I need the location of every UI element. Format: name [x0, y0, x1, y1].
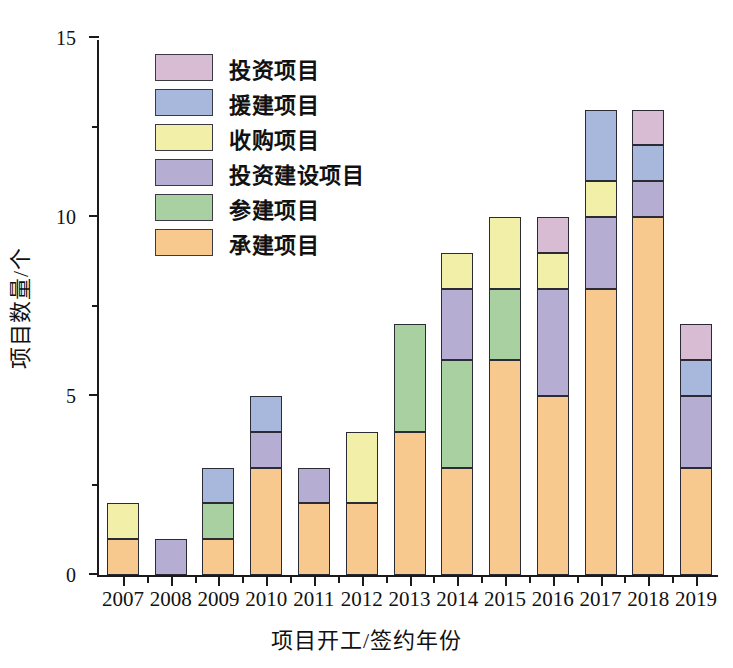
bar-segment[interactable]: [680, 468, 712, 575]
bar-column[interactable]: [346, 432, 378, 575]
legend-item[interactable]: 承建项目: [155, 225, 415, 260]
x-axis-tick-label: 2009: [197, 589, 239, 610]
x-axis-tick: [410, 575, 412, 586]
bar-segment[interactable]: [346, 503, 378, 575]
y-axis-tick-label: 5: [66, 386, 76, 406]
y-axis-minor-tick: [92, 126, 99, 128]
x-axis-minor-tick: [529, 575, 531, 583]
bar-segment[interactable]: [202, 468, 234, 504]
x-axis-tick: [266, 575, 268, 586]
bar-column[interactable]: [632, 110, 664, 575]
y-axis-minor-tick: [92, 484, 99, 486]
stacked-bar-chart: 项目数量/个 051015 20072008200920102011201220…: [0, 0, 733, 668]
x-axis-tick: [505, 575, 507, 586]
bar-segment[interactable]: [298, 468, 330, 504]
x-axis-minor-tick: [242, 575, 244, 583]
y-axis-tick-label: 15: [56, 28, 76, 48]
bar-segment[interactable]: [489, 289, 521, 361]
bar-column[interactable]: [489, 217, 521, 575]
x-axis-minor-tick: [195, 575, 197, 583]
bar-segment[interactable]: [585, 110, 617, 182]
bar-column[interactable]: [537, 217, 569, 575]
x-axis-tick: [362, 575, 364, 586]
legend-item[interactable]: 投资建设项目: [155, 155, 415, 190]
x-axis-minor-tick: [672, 575, 674, 583]
bar-segment[interactable]: [250, 432, 282, 468]
bar-segment[interactable]: [537, 217, 569, 253]
bar-segment[interactable]: [441, 289, 473, 361]
bar-segment[interactable]: [537, 253, 569, 289]
bar-segment[interactable]: [632, 110, 664, 146]
x-axis-tick: [457, 575, 459, 586]
legend-swatch-icon: [155, 89, 213, 116]
bar-segment[interactable]: [537, 289, 569, 396]
chart-legend: 投资项目援建项目收购项目投资建设项目参建项目承建项目: [155, 50, 415, 260]
x-axis-tick: [314, 575, 316, 586]
bar-segment[interactable]: [632, 217, 664, 575]
bar-segment[interactable]: [680, 324, 712, 360]
x-axis-tick-label: 2016: [532, 589, 574, 610]
bar-segment[interactable]: [632, 145, 664, 181]
bar-column[interactable]: [585, 110, 617, 575]
legend-item[interactable]: 参建项目: [155, 190, 415, 225]
bar-segment[interactable]: [394, 324, 426, 431]
bar-column[interactable]: [680, 324, 712, 575]
y-axis-tick: 10: [89, 215, 99, 217]
bar-segment[interactable]: [250, 468, 282, 575]
y-axis-tick: 15: [89, 36, 99, 38]
legend-swatch-icon: [155, 229, 213, 256]
legend-item[interactable]: 援建项目: [155, 85, 415, 120]
bar-segment[interactable]: [489, 360, 521, 575]
x-axis-tick: [601, 575, 603, 586]
legend-item[interactable]: 投资项目: [155, 50, 415, 85]
bar-segment[interactable]: [441, 253, 473, 289]
bar-segment[interactable]: [585, 289, 617, 575]
bar-segment[interactable]: [585, 217, 617, 289]
bar-segment[interactable]: [394, 432, 426, 575]
x-axis-tick-label: 2007: [102, 589, 144, 610]
y-axis-tick-label: 10: [56, 207, 76, 227]
bar-column[interactable]: [298, 468, 330, 575]
legend-swatch-icon: [155, 54, 213, 81]
bar-segment[interactable]: [202, 539, 234, 575]
x-axis-minor-tick: [624, 575, 626, 583]
legend-item-label: 投资建设项目: [229, 157, 364, 189]
bar-segment[interactable]: [441, 468, 473, 575]
bar-column[interactable]: [441, 253, 473, 575]
bar-segment[interactable]: [585, 181, 617, 217]
bar-segment[interactable]: [680, 396, 712, 468]
bar-column[interactable]: [155, 539, 187, 575]
legend-swatch-icon: [155, 124, 213, 151]
x-axis-minor-tick: [577, 575, 579, 583]
bar-segment[interactable]: [155, 539, 187, 575]
x-axis-tick-label: 2008: [150, 589, 192, 610]
bar-segment[interactable]: [680, 360, 712, 396]
x-axis-minor-tick: [481, 575, 483, 583]
x-axis-tick: [218, 575, 220, 586]
bar-segment[interactable]: [202, 503, 234, 539]
bar-column[interactable]: [202, 468, 234, 575]
legend-item-label: 投资项目: [229, 52, 319, 84]
x-axis-tick-label: 2012: [341, 589, 383, 610]
bar-segment[interactable]: [346, 432, 378, 504]
bar-column[interactable]: [250, 396, 282, 575]
bar-segment[interactable]: [107, 539, 139, 575]
legend-item[interactable]: 收购项目: [155, 120, 415, 155]
bar-segment[interactable]: [298, 503, 330, 575]
x-axis-minor-tick: [433, 575, 435, 583]
bar-segment[interactable]: [489, 217, 521, 289]
x-axis-tick: [123, 575, 125, 586]
bar-segment[interactable]: [107, 503, 139, 539]
bar-column[interactable]: [394, 324, 426, 575]
legend-item-label: 参建项目: [229, 192, 319, 224]
x-axis-tick-label: 2017: [580, 589, 622, 610]
bar-segment[interactable]: [441, 360, 473, 467]
x-axis-minor-tick: [386, 575, 388, 583]
bar-segment[interactable]: [632, 181, 664, 217]
x-axis-tick: [696, 575, 698, 586]
bar-segment[interactable]: [537, 396, 569, 575]
legend-item-label: 承建项目: [229, 227, 319, 259]
bar-column[interactable]: [107, 503, 139, 575]
x-axis-tick-label: 2018: [627, 589, 669, 610]
bar-segment[interactable]: [250, 396, 282, 432]
